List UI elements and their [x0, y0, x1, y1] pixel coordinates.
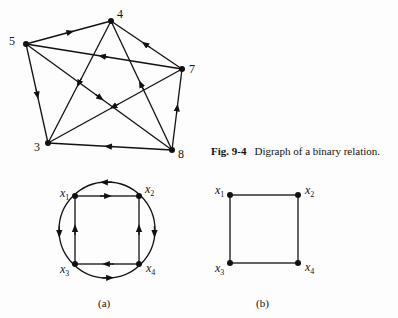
- node-3: [45, 140, 51, 146]
- graph-a-label-x1: x1: [59, 186, 69, 202]
- digraph-figure: 45738 x1 x2 x3 x4 x1 x2 x3 x4: [0, 0, 398, 318]
- graph-b-label-x2: x2: [304, 183, 314, 199]
- graph-b-label-x4: x4: [304, 260, 314, 276]
- top-graph-edges: [26, 21, 182, 150]
- graph-a-label-x3: x3: [59, 262, 69, 278]
- graph-b-label-x3: x3: [214, 261, 224, 277]
- node-8: [169, 147, 175, 153]
- node-label-8: 8: [178, 147, 184, 161]
- graph-a-nodes: [72, 193, 142, 267]
- figure-caption: Fig. 9-4Digraph of a binary relation.: [211, 145, 380, 157]
- graph-a-square: [75, 196, 139, 264]
- node-4: [108, 18, 114, 24]
- top-graph-nodes: 45738: [9, 7, 195, 161]
- node-7: [179, 66, 185, 72]
- node-label-4: 4: [117, 7, 123, 21]
- node-label-7: 7: [189, 62, 195, 76]
- graph-a-label-x2: x2: [144, 182, 154, 198]
- graph-b: [230, 195, 298, 263]
- graph-b-label-x1: x1: [214, 183, 224, 199]
- graph-b-nodes: [227, 192, 301, 266]
- graph-b-caption: (b): [256, 297, 269, 309]
- node-5: [23, 41, 29, 47]
- figure-caption-text: Digraph of a binary relation.: [254, 145, 380, 157]
- figure-number: Fig. 9-4: [211, 145, 246, 157]
- graph-a-label-x4: x4: [145, 261, 155, 277]
- graph-a-caption: (a): [98, 297, 110, 309]
- node-label-3: 3: [34, 140, 40, 154]
- node-label-5: 5: [9, 34, 15, 48]
